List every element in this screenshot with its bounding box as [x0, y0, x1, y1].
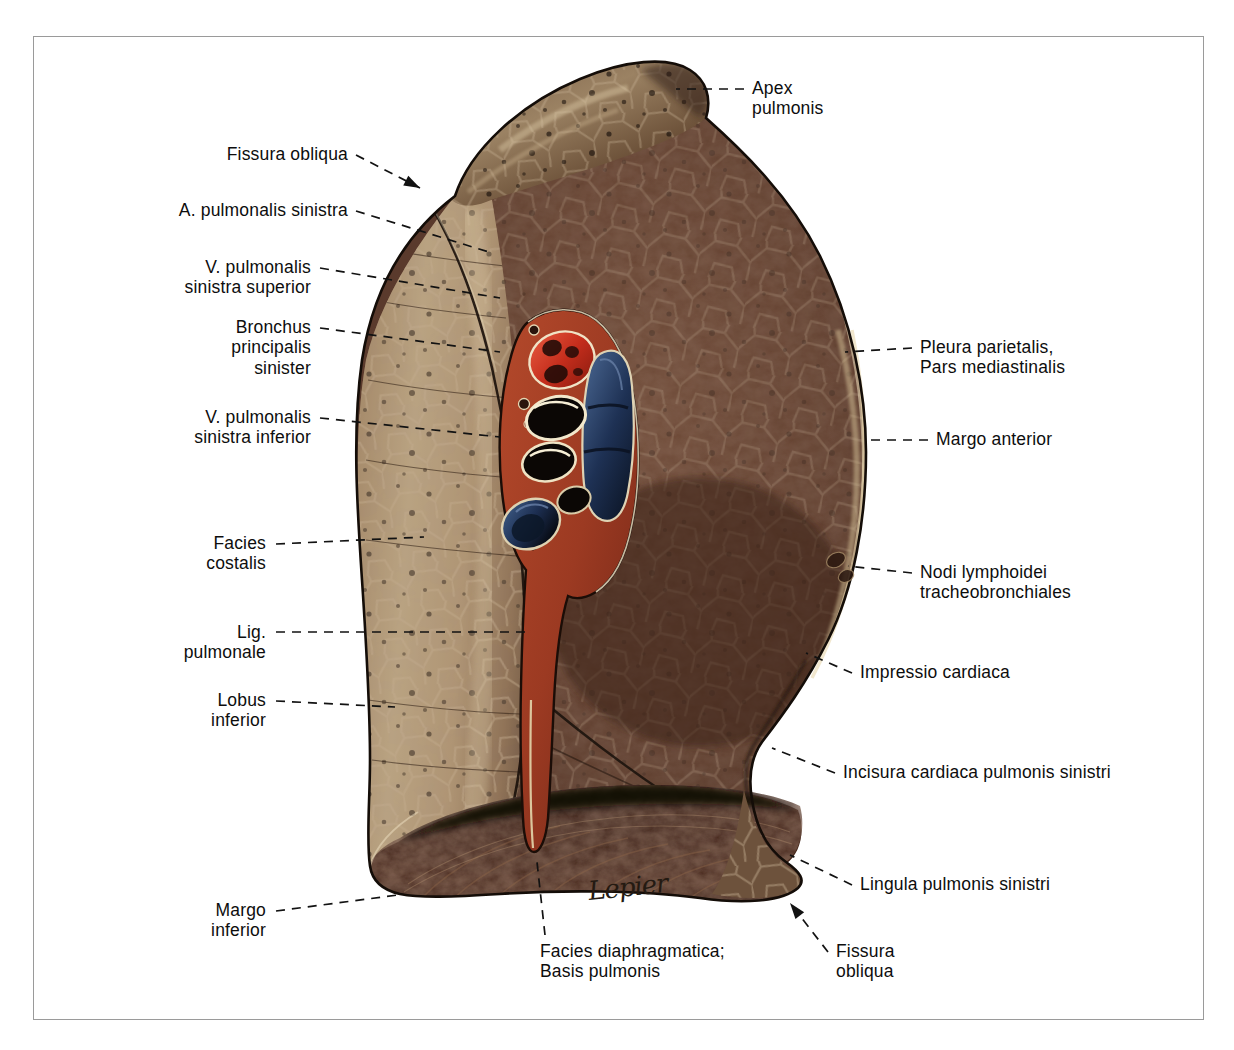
label-lobus-inferior: Lobusinferior	[211, 690, 266, 731]
label-line: obliqua	[836, 961, 895, 981]
label-line: costalis	[206, 553, 266, 573]
label-line: Impressio cardiaca	[860, 662, 1010, 682]
leader-fissura-obliqua-superior	[356, 155, 420, 188]
label-a-pulmonalis-sinistra: A. pulmonalis sinistra	[179, 200, 348, 220]
label-line: Pleura parietalis,	[920, 337, 1065, 357]
label-line: sinistra superior	[185, 277, 312, 297]
label-margo-inferior: Margoinferior	[211, 900, 266, 941]
leader-margo-inferior	[276, 895, 398, 911]
label-fissura-obliqua-superior: Fissura obliqua	[227, 144, 348, 164]
label-line: Apex	[752, 78, 823, 98]
label-line: inferior	[211, 710, 266, 730]
label-line: Lig.	[184, 622, 266, 642]
label-impressio-cardiaca: Impressio cardiaca	[860, 662, 1010, 682]
anatomy-plate: Lepier Fissura obliquaA. pulmonalis sini…	[0, 0, 1234, 1050]
label-line: Fissura obliqua	[227, 144, 348, 164]
label-lingula-pulmonis: Lingula pulmonis sinistri	[860, 874, 1050, 894]
label-fissura-obliqua-inferior: Fissuraobliqua	[836, 941, 895, 982]
label-line: Incisura cardiaca pulmonis sinistri	[843, 762, 1111, 782]
label-line: Facies diaphragmatica;	[540, 941, 725, 961]
label-bronchus-principalis-sinister: Bronchusprincipalissinister	[231, 317, 311, 378]
label-line: V. pulmonalis	[185, 257, 312, 277]
label-line: principalis	[231, 337, 311, 357]
label-incisura-cardiaca: Incisura cardiaca pulmonis sinistri	[843, 762, 1111, 782]
label-line: Facies	[206, 533, 266, 553]
leader-arrowhead-fissura-obliqua-inferior	[790, 903, 804, 919]
leader-fissura-obliqua-inferior	[790, 903, 828, 952]
label-line: V. pulmonalis	[194, 407, 311, 427]
label-line: Margo	[211, 900, 266, 920]
label-line: Fissura	[836, 941, 895, 961]
label-line: Bronchus	[231, 317, 311, 337]
label-pleura-parietalis: Pleura parietalis,Pars mediastinalis	[920, 337, 1065, 378]
label-line: Nodi lymphoidei	[920, 562, 1071, 582]
label-facies-diaphragmatica: Facies diaphragmatica;Basis pulmonis	[540, 941, 725, 982]
label-lig-pulmonale: Lig.pulmonale	[184, 622, 266, 663]
label-apex-pulmonis: Apexpulmonis	[752, 78, 823, 119]
label-line: A. pulmonalis sinistra	[179, 200, 348, 220]
label-line: sinister	[231, 358, 311, 378]
label-line: sinistra inferior	[194, 427, 311, 447]
label-line: Lingula pulmonis sinistri	[860, 874, 1050, 894]
label-facies-costalis: Faciescostalis	[206, 533, 266, 574]
small-vessel	[519, 399, 530, 410]
label-v-pulmonalis-sinistra-inferior: V. pulmonalissinistra inferior	[194, 407, 311, 448]
label-nodi-lymphoidei: Nodi lymphoideitracheobronchiales	[920, 562, 1071, 603]
small-vessel	[529, 325, 539, 335]
leader-incisura-cardiaca	[772, 748, 835, 773]
label-line: Basis pulmonis	[540, 961, 725, 981]
leader-nodi-lymphoidei	[848, 566, 912, 573]
label-line: pulmonale	[184, 642, 266, 662]
label-line: Margo anterior	[936, 429, 1052, 449]
label-margo-anterior: Margo anterior	[936, 429, 1052, 449]
label-line: pulmonis	[752, 98, 823, 118]
label-line: Lobus	[211, 690, 266, 710]
label-line: Pars mediastinalis	[920, 357, 1065, 377]
label-v-pulmonalis-sinistra-superior: V. pulmonalissinistra superior	[185, 257, 312, 298]
label-line: tracheobronchiales	[920, 582, 1071, 602]
leader-arrowhead-fissura-obliqua-superior	[403, 176, 420, 188]
label-line: inferior	[211, 920, 266, 940]
